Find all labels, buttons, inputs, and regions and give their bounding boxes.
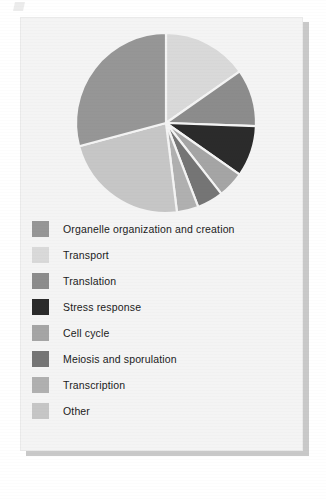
legend-swatch-stress-response bbox=[32, 299, 49, 315]
legend-item: Stress response bbox=[29, 294, 297, 320]
legend-swatch-meiosis-and-sporulation bbox=[32, 351, 49, 367]
legend-swatch-other bbox=[32, 403, 49, 419]
pie-chart-svg bbox=[21, 18, 304, 218]
legend-item: Cell cycle bbox=[29, 320, 297, 346]
scan-artifact-mark bbox=[13, 2, 25, 11]
legend-swatch-translation bbox=[32, 273, 49, 289]
legend-swatch-organelle-organization-and-creation bbox=[32, 221, 49, 237]
legend-label: Organelle organization and creation bbox=[63, 224, 235, 235]
legend-label: Cell cycle bbox=[63, 328, 109, 339]
legend-item: Other bbox=[29, 398, 297, 424]
legend-label: Transcription bbox=[63, 380, 125, 391]
legend-item: Organelle organization and creation bbox=[29, 216, 297, 242]
legend-item: Transcription bbox=[29, 372, 297, 398]
legend-swatch-transport bbox=[32, 247, 49, 263]
legend-label: Transport bbox=[63, 250, 109, 261]
legend-item: Translation bbox=[29, 268, 297, 294]
legend-swatch-cell-cycle bbox=[32, 325, 49, 341]
legend-label: Stress response bbox=[63, 302, 141, 313]
legend-label: Meiosis and sporulation bbox=[63, 354, 177, 365]
legend-label: Other bbox=[63, 406, 90, 417]
legend-item: Meiosis and sporulation bbox=[29, 346, 297, 372]
figure-panel: Organelle organization and creation Tran… bbox=[20, 17, 303, 451]
pie-chart bbox=[21, 18, 304, 218]
legend-item: Transport bbox=[29, 242, 297, 268]
legend-label: Translation bbox=[63, 276, 116, 287]
legend-swatch-transcription bbox=[32, 377, 49, 393]
chart-legend: Organelle organization and creation Tran… bbox=[29, 216, 297, 424]
